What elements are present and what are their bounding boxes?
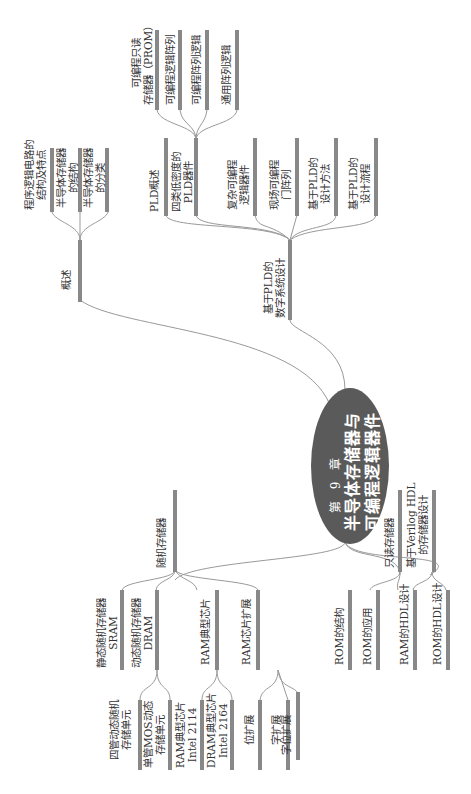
center-title-line1: 半导体存储器与 (343, 412, 362, 531)
pld-flow-bar (374, 138, 378, 216)
node-intel-2164[interactable]: DRAM典型芯片Intel 2164 (205, 693, 229, 768)
node-sram[interactable]: 静态随机存储器SRAM (95, 598, 119, 668)
pld-design-bar (288, 240, 292, 320)
node-pal[interactable]: 可编程阵列逻辑 (190, 35, 202, 105)
dram-bar (155, 590, 159, 670)
overview-bar (78, 240, 82, 302)
single-mos-bar (168, 700, 172, 770)
node-memory-classification[interactable]: 半导体存储器的分类 (82, 148, 106, 208)
pla-bar (178, 30, 182, 110)
node-verilog-memory-design[interactable]: 基于Verilog HDL的存储器设计 (405, 483, 429, 569)
node-bit-expansion[interactable]: 位扩展 (243, 715, 255, 745)
node-rom-application[interactable]: ROM的应用 (361, 608, 373, 665)
prom-bar (155, 30, 159, 110)
node-fpga[interactable]: 现场可编程门阵列 (268, 160, 292, 210)
node-word-bit-expansion[interactable]: 字位扩展 (280, 715, 292, 755)
node-four-tube-cell[interactable]: 四管动态随机存储单元 (108, 700, 132, 760)
node-ram[interactable]: 随机存储器 (155, 518, 167, 568)
node-memory-structure[interactable]: 半导体存储器的结构 (55, 148, 79, 208)
rom-app-bar (376, 590, 380, 670)
node-overview[interactable]: 概述 (60, 270, 72, 290)
node-rom-hdl-design[interactable]: ROM的HDL设计 (431, 583, 443, 665)
bit-ext-bar (258, 700, 262, 770)
intel2114-bar (200, 700, 204, 770)
node-prom[interactable]: 可编程只读存储器（PROM） (130, 21, 154, 105)
node-ram-hdl-design[interactable]: RAM的HDL设计 (398, 584, 410, 665)
node-cpld[interactable]: 复杂可编程逻辑器件 (226, 160, 250, 210)
node-rom[interactable]: 只读存储器 (383, 518, 395, 568)
fpga-bar (295, 138, 299, 216)
rom-bar (398, 490, 402, 572)
pld-method-bar (334, 138, 338, 216)
gal-bar (235, 30, 239, 110)
node-intel-2114[interactable]: RAM典型芯片Intel 2114 (174, 702, 198, 768)
ram-bar (173, 490, 177, 572)
connector-lines (0, 0, 471, 794)
node-pld-design-method[interactable]: 基于PLD的设计方法 (307, 158, 331, 210)
center-title-line2: 可编程逻辑器件 (363, 412, 382, 531)
node-ram-expansion[interactable]: RAM芯片扩展 (240, 599, 252, 665)
node-pld-overview[interactable]: PLD概述 (148, 170, 160, 212)
chapter-label: 第 9 章 (329, 454, 343, 513)
cpld-bar (253, 138, 257, 216)
pld-overview-bar (164, 138, 168, 216)
node-ram-typical-chip[interactable]: RAM典型芯片 (199, 599, 211, 665)
low-density-bar (194, 138, 198, 216)
rom-structure-bar (348, 590, 352, 670)
node-low-density-pld[interactable]: 四类低密度的PLD器件 (170, 152, 194, 212)
wordbit-ext-bar (296, 692, 300, 760)
intel2164-bar (230, 700, 234, 770)
node-pld-system-design[interactable]: 基于PLD的数字系统设计 (262, 258, 286, 318)
node-rom-structure[interactable]: ROM的结构 (333, 608, 345, 665)
rom-hdl-bar (446, 590, 450, 670)
ram-ext-bar (256, 590, 260, 670)
node-dram[interactable]: 动态随机存储器DRAM (130, 598, 154, 668)
node-single-mos-cell[interactable]: 单管MOS动态存储单元 (142, 701, 166, 768)
node-program-logic-structure[interactable]: 程序逻辑电路的结构及特点 (23, 140, 47, 210)
hdl-bar (432, 490, 436, 572)
ram-chip-bar (215, 590, 219, 670)
structure-bar (50, 148, 54, 212)
sram-bar (120, 590, 124, 670)
node-pld-design-flow[interactable]: 基于PLD的设计流程 (347, 158, 371, 210)
pal-bar (205, 30, 209, 110)
ram-hdl-bar (413, 590, 417, 670)
central-topic[interactable]: 第 9 章 半导体存储器与 可编程逻辑器件 (311, 388, 389, 544)
node-pla[interactable]: 可编程逻辑阵列 (164, 35, 176, 105)
node-gal[interactable]: 通用阵列逻辑 (220, 45, 232, 105)
